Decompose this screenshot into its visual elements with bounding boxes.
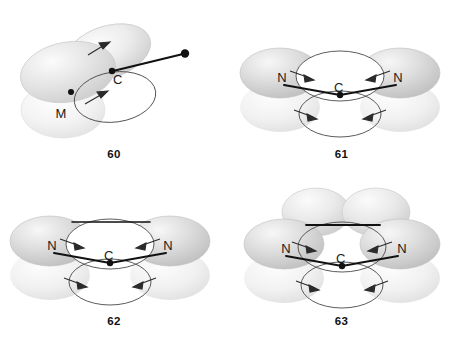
panel-60: C M 60 xyxy=(0,0,228,175)
panel-62: N C N 62 xyxy=(0,175,228,349)
label-atom-n-right: N xyxy=(163,238,172,253)
panel-61: N C N 61 xyxy=(228,0,455,175)
panel-caption-61: 61 xyxy=(228,148,455,160)
label-atom-m: M xyxy=(56,106,67,121)
label-central-atom-c: C xyxy=(113,72,122,87)
label-atom-n-left: N xyxy=(47,238,56,253)
lobe-junction-dot xyxy=(68,89,74,95)
label-atom-n-right: N xyxy=(393,70,402,85)
label-central-atom-c: C xyxy=(334,80,343,95)
orbital-diagram-figure: C M 60 xyxy=(0,0,455,349)
panel-caption-62: 62 xyxy=(0,315,228,327)
label-atom-n-left: N xyxy=(281,241,290,256)
label-atom-n-left: N xyxy=(277,70,286,85)
label-central-atom-c: C xyxy=(104,248,113,263)
label-atom-n-right: N xyxy=(397,241,406,256)
panel-63: N C N 63 xyxy=(228,175,455,349)
panel-caption-63: 63 xyxy=(228,315,455,327)
terminal-atom-dot xyxy=(181,49,189,57)
panel-caption-60: 60 xyxy=(0,148,228,160)
label-central-atom-c: C xyxy=(336,251,345,266)
